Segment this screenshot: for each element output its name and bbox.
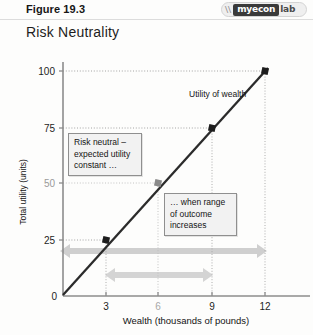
logo-plate: myecon (233, 4, 279, 16)
y-tick-label-100: 100 (38, 66, 55, 77)
x-tick-label-12: 12 (259, 301, 271, 312)
figure-container: Figure 19.3 Risk Neutrality \\ myecon la… (0, 0, 313, 335)
logo-name-mid: econ (252, 4, 275, 14)
header-divider (0, 19, 313, 20)
inner-range-arrow (105, 268, 213, 282)
data-point-12-100[interactable] (261, 67, 269, 75)
x-tick-label-6: 6 (155, 301, 161, 312)
utility-of-wealth-line (63, 68, 268, 295)
data-point-9-75[interactable] (208, 124, 216, 132)
logo-name-bold: my (237, 4, 252, 14)
data-point-3-25[interactable] (102, 236, 110, 244)
risk-neutrality-chart: 100 75 50 25 0 3 6 9 12 Wealth (thousand… (0, 44, 313, 335)
data-point-6-50[interactable] (154, 179, 162, 187)
outer-range-arrow (60, 244, 267, 258)
y-tick-label-25: 25 (44, 235, 56, 246)
x-tick-label-9: 9 (209, 301, 215, 312)
y-axis-label: Total utility (units) (18, 159, 28, 225)
x-tick-label-3: 3 (103, 301, 109, 312)
callout-range-increase: … when range of outcome increases (164, 193, 237, 236)
x-axis-label: Wealth (thousands of pounds) (123, 315, 250, 326)
figure-number: Figure 19.3 (26, 3, 85, 15)
curve-label-utility-of-wealth: Utility of wealth (189, 89, 247, 100)
callout-risk-neutral: Risk neutral – expected utility constant… (68, 133, 142, 176)
y-tick-label-50: 50 (44, 178, 56, 189)
logo-name-tail: lab (280, 5, 295, 14)
y-tick-label-75: 75 (44, 123, 56, 134)
page-title: Risk Neutrality (26, 24, 119, 40)
myeconlab-logo[interactable]: \\ myecon lab (221, 2, 307, 17)
y-tick-label-0: 0 (51, 291, 57, 302)
logo-x-icon: \\ (225, 4, 231, 15)
